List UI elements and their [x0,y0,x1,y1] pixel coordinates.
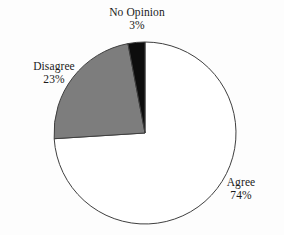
slice-label-no-opinion: No Opinion 3% [72,6,202,32]
slice-label-disagree-name: Disagree [8,60,100,73]
slice-label-disagree: Disagree 23% [8,60,100,86]
slice-label-no-opinion-value: 3% [72,19,202,32]
slice-label-no-opinion-name: No Opinion [72,6,202,19]
slice-label-disagree-value: 23% [8,73,100,86]
pie-chart: No Opinion 3% Disagree 23% Agree 74% [0,0,284,235]
slice-label-agree-value: 74% [206,189,276,202]
slice-label-agree-name: Agree [206,176,276,189]
slice-label-agree: Agree 74% [206,176,276,202]
